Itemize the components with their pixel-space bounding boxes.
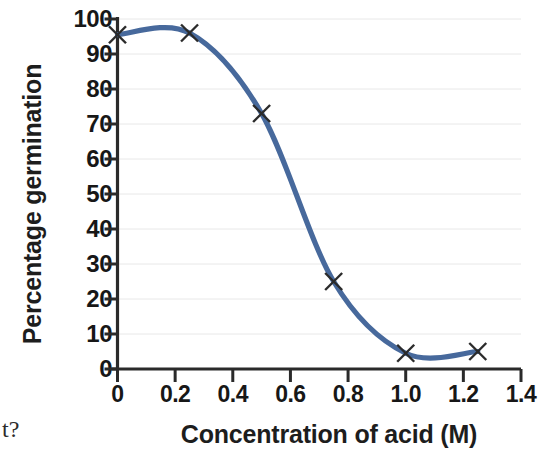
x-axis-title: Concentration of acid (M) (117, 420, 541, 449)
x-tick-label: 1.0 (390, 383, 420, 406)
data-point-marker (325, 273, 342, 290)
chart-figure: Percentage germination 01020304050607080… (0, 0, 541, 465)
plot-area (0, 0, 541, 400)
y-tick-marks-group (105, 19, 118, 369)
x-tick-label: 0.6 (275, 383, 305, 406)
gridlines-group (118, 19, 522, 334)
axis-frame-group (112, 17, 522, 369)
x-axis-tick-labels: 00.20.40.60.81.01.21.4 (0, 383, 541, 415)
plot-svg (0, 0, 541, 400)
x-tick-label: 0.2 (160, 383, 190, 406)
x-tick-label: 0.8 (333, 383, 363, 406)
page-text-fragment: t? (2, 417, 19, 441)
x-tick-label: 1.2 (448, 383, 478, 406)
data-point-marker (253, 105, 270, 122)
x-tick-label: 0 (111, 383, 123, 406)
x-tick-label: 0.4 (218, 383, 248, 406)
data-curve (118, 28, 478, 359)
x-tick-label: 1.4 (506, 383, 536, 406)
